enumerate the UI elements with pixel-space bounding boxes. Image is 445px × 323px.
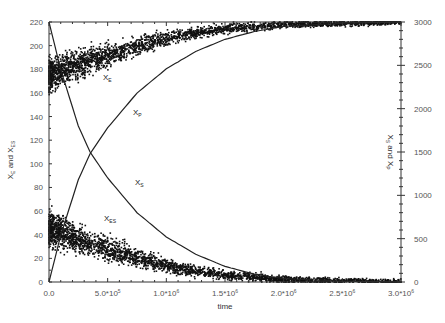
y-axis-right-label: XS and XP [385,134,395,170]
y-axis-left-label: XE and XES [6,140,16,179]
svg-text:3.0*106: 3.0*106 [388,288,414,298]
svg-text:500: 500 [414,235,428,244]
svg-text:160: 160 [30,89,44,98]
x-axis-label: time [217,302,233,311]
svg-text:XE and XES: XE and XES [6,140,16,179]
svg-text:20: 20 [34,254,43,263]
svg-text:2.0*106: 2.0*106 [271,288,297,298]
svg-text:80: 80 [34,183,43,192]
svg-text:220: 220 [30,18,44,27]
scatter-points [48,21,402,283]
label-X_S: XS [135,178,144,188]
svg-text:2500: 2500 [414,61,432,70]
curve-labels: XEXESXSXP [103,73,144,224]
svg-text:1000: 1000 [414,191,432,200]
svg-text:120: 120 [30,136,44,145]
label-X_ES: XES [104,214,117,224]
svg-text:100: 100 [30,160,44,169]
label-X_E: XE [103,73,112,83]
svg-text:5.0*105: 5.0*105 [95,288,121,298]
svg-text:2.5*106: 2.5*106 [329,288,355,298]
label-X_P: XP [133,108,142,118]
svg-text:60: 60 [34,207,43,216]
svg-text:0: 0 [39,278,44,287]
svg-text:XS and XP: XS and XP [385,134,395,170]
svg-text:1500: 1500 [414,148,432,157]
scatter-X_ES [48,205,402,283]
scatter-X_E [48,21,401,95]
svg-text:1.5*106: 1.5*106 [212,288,238,298]
svg-text:0: 0 [414,278,419,287]
svg-text:1.0*106: 1.0*106 [153,288,179,298]
svg-text:140: 140 [30,113,44,122]
svg-text:0.0: 0.0 [43,289,55,298]
chart: 0204060801001201401601802002200500100015… [0,0,445,323]
svg-text:2000: 2000 [414,105,432,114]
svg-text:180: 180 [30,65,44,74]
svg-text:3000: 3000 [414,18,432,27]
svg-text:40: 40 [34,231,43,240]
svg-text:200: 200 [30,42,44,51]
